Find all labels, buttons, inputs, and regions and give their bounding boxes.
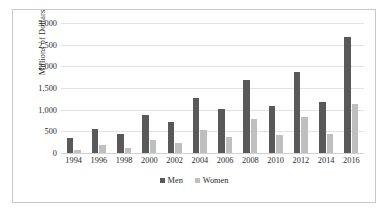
bar-women-2008: [251, 119, 258, 153]
bar-men-2014: [319, 102, 326, 153]
bar-group-2004: [187, 23, 212, 153]
x-tick-label-2002: 2002: [162, 156, 187, 165]
bar-group-2012: [288, 23, 313, 153]
bar-women-2012: [301, 117, 308, 153]
x-tick-label-2000: 2000: [137, 156, 162, 165]
bar-women-1996: [99, 145, 106, 153]
y-tick-label: 1,000: [38, 105, 57, 114]
bar-men-2016: [344, 37, 351, 153]
bar-group-1996: [86, 23, 111, 153]
x-tick-label-2008: 2008: [238, 156, 263, 165]
bar-men-2008: [243, 80, 250, 153]
y-tick-label: 3,000: [38, 19, 57, 28]
gridline-0: [61, 153, 364, 154]
bar-group-2000: [137, 23, 162, 153]
x-tick-label-2006: 2006: [213, 156, 238, 165]
x-tick-label-2010: 2010: [263, 156, 288, 165]
x-tick-label-1998: 1998: [112, 156, 137, 165]
bar-women-1998: [125, 148, 132, 153]
y-tick-label: 0: [53, 149, 57, 158]
bar-men-1996: [92, 129, 99, 153]
x-tick-label-2014: 2014: [314, 156, 339, 165]
bar-men-1998: [117, 134, 124, 154]
bar-women-2000: [150, 140, 157, 153]
x-tick-label-1994: 1994: [61, 156, 86, 165]
bar-women-2004: [200, 130, 207, 153]
bar-women-2010: [276, 135, 283, 153]
y-tick-label: 500: [45, 127, 57, 136]
y-tick-label: 1,500: [38, 84, 57, 93]
men-swatch-icon: [160, 178, 165, 183]
bar-men-2006: [218, 109, 225, 153]
legend-item-men[interactable]: Men: [160, 176, 183, 185]
bar-men-2010: [269, 106, 276, 153]
bar-group-2008: [238, 23, 263, 153]
plot-area: 3,0002,5002,0001,5001,0005000: [61, 23, 364, 153]
bar-men-2002: [168, 122, 175, 153]
bar-group-2014: [314, 23, 339, 153]
x-tick-label-2016: 2016: [339, 156, 364, 165]
legend-label: Women: [203, 176, 229, 185]
bar-men-1994: [67, 138, 74, 153]
bar-group-1998: [112, 23, 137, 153]
chart-container: Millions of Dollars 3,0002,5002,0001,500…: [12, 9, 376, 203]
chart-legend: MenWomen: [13, 176, 375, 185]
bar-group-2006: [213, 23, 238, 153]
bar-men-2012: [294, 72, 301, 153]
bar-men-2004: [193, 98, 200, 153]
y-tick-label: 2,500: [38, 40, 57, 49]
bars-layer: [61, 23, 364, 153]
women-swatch-icon: [195, 178, 200, 183]
bar-women-1994: [74, 150, 81, 153]
legend-item-women[interactable]: Women: [195, 176, 229, 185]
bar-women-2002: [175, 143, 182, 153]
bar-women-2006: [226, 137, 233, 153]
x-tick-label-2012: 2012: [288, 156, 313, 165]
bar-group-1994: [61, 23, 86, 153]
x-tick-label-2004: 2004: [187, 156, 212, 165]
x-tick-label-1996: 1996: [86, 156, 111, 165]
bar-women-2016: [352, 104, 359, 153]
x-axis-tick-labels: 1994199619982000200220042006200820102012…: [61, 156, 364, 165]
y-tick-label: 2,000: [38, 62, 57, 71]
bar-men-2000: [142, 115, 149, 153]
bar-women-2014: [327, 134, 334, 153]
legend-label: Men: [168, 176, 183, 185]
bar-group-2002: [162, 23, 187, 153]
bar-group-2010: [263, 23, 288, 153]
bar-group-2016: [339, 23, 364, 153]
